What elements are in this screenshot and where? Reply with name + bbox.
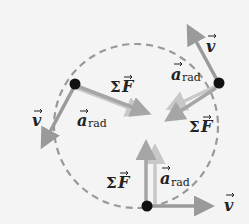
velocity-label: v bbox=[224, 196, 234, 215]
accel-subscript: rad bbox=[182, 71, 201, 84]
velocity-label: v bbox=[206, 37, 216, 56]
force-label: F bbox=[200, 117, 214, 136]
accel-label: a bbox=[160, 169, 170, 188]
accel-subscript: rad bbox=[88, 117, 107, 130]
point-upper-right-labels: v a rad Σ F bbox=[171, 34, 216, 136]
sigma-label: Σ bbox=[110, 78, 121, 96]
accel-label: a bbox=[77, 111, 87, 130]
particle bbox=[142, 201, 153, 212]
accel-subscript: rad bbox=[171, 176, 190, 189]
sigma-label: Σ bbox=[189, 118, 200, 136]
velocity-label: v bbox=[32, 111, 42, 130]
particle bbox=[70, 79, 81, 90]
sigma-label: Σ bbox=[106, 174, 117, 192]
circular-motion-diagram: Σ F a rad v v a rad Σ F Σ F a rad v bbox=[0, 0, 249, 224]
force-label: F bbox=[117, 173, 131, 192]
force-label: F bbox=[121, 77, 135, 96]
particle bbox=[214, 78, 225, 89]
accel-label: a bbox=[171, 65, 181, 84]
